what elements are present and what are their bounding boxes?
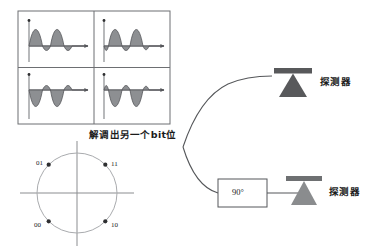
detector-lower-label: 探测器	[329, 187, 360, 197]
constellation-diagram	[20, 141, 134, 246]
waveform-grid-frame	[18, 11, 170, 124]
waveform-bottom-right	[103, 73, 164, 119]
lower-branch-curve	[183, 147, 218, 193]
page-title: 解调出另一个bit位	[89, 130, 177, 140]
constellation-point-00	[47, 219, 51, 223]
detector-lower-icon	[286, 176, 322, 205]
constellation-label-01: 01	[36, 160, 43, 167]
constellation-label-10: 10	[111, 222, 118, 229]
phase-shifter-label: 90°	[232, 188, 244, 197]
waveform-top-left	[28, 19, 88, 62]
detector-upper-icon	[274, 68, 312, 97]
diagram-svg	[0, 0, 367, 251]
constellation-point-10	[103, 219, 107, 223]
constellation-point-01	[47, 163, 51, 167]
waveform-bottom-left	[28, 73, 88, 119]
constellation-label-00: 00	[34, 222, 41, 229]
figure-canvas: 解调出另一个bit位 01 11 00 10 90° 探测器 探测器	[0, 0, 367, 251]
constellation-label-11: 11	[111, 161, 118, 168]
upper-branch-curve	[183, 76, 272, 147]
constellation-point-11	[103, 163, 107, 167]
waveform-top-right	[103, 19, 164, 62]
detector-upper-label: 探测器	[320, 77, 351, 87]
